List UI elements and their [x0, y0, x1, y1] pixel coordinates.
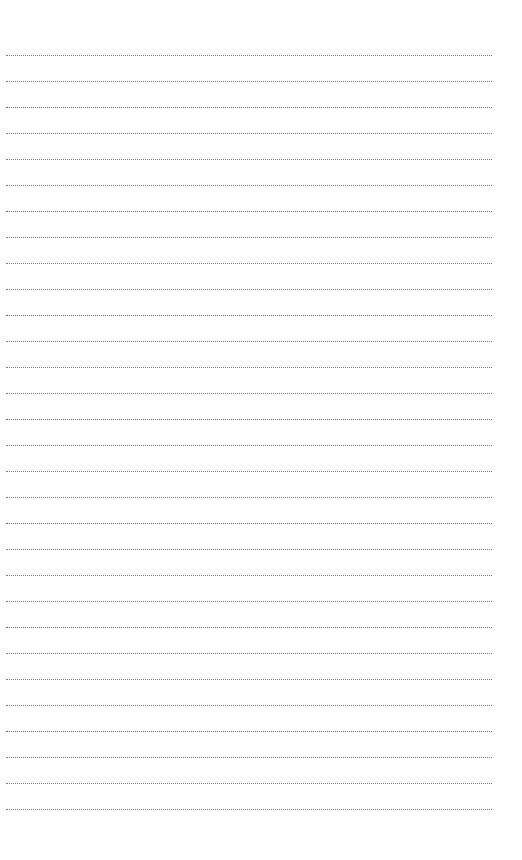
ruled-line [6, 497, 492, 523]
ruled-line [6, 55, 492, 81]
ruled-line [6, 523, 492, 549]
ruled-line [6, 81, 492, 107]
ruled-line [6, 289, 492, 315]
ruled-line [6, 705, 492, 731]
ruled-line [6, 575, 492, 601]
ruled-line [6, 341, 492, 367]
ruled-lines [6, 55, 492, 835]
ruled-line [6, 211, 492, 237]
ruled-line [6, 315, 492, 341]
ruled-line [6, 107, 492, 133]
ruled-line [6, 757, 492, 783]
ruled-line [6, 627, 492, 653]
ruled-line [6, 471, 492, 497]
ruled-line [6, 549, 492, 575]
ruled-line [6, 809, 492, 835]
ruled-line [6, 159, 492, 185]
ruled-line [6, 367, 492, 393]
ruled-line [6, 133, 492, 159]
ruled-line [6, 445, 492, 471]
ruled-line [6, 601, 492, 627]
lined-paper-page [0, 0, 522, 860]
ruled-line [6, 263, 492, 289]
ruled-line [6, 783, 492, 809]
ruled-line [6, 185, 492, 211]
ruled-line [6, 653, 492, 679]
ruled-line [6, 237, 492, 263]
ruled-line [6, 679, 492, 705]
ruled-line [6, 731, 492, 757]
ruled-line [6, 393, 492, 419]
ruled-line [6, 419, 492, 445]
